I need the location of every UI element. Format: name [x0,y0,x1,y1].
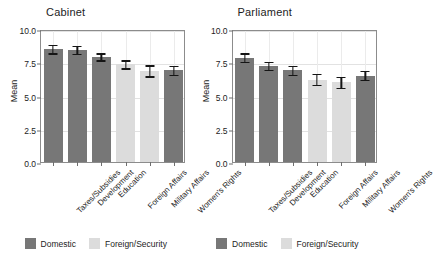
error-bar-cap-upper [288,66,297,67]
error-bar-cap-lower [97,60,106,61]
bar-group[interactable] [92,29,111,162]
bar-domestic[interactable] [68,50,87,162]
bar-foreign[interactable] [116,64,135,162]
y-axis-tick-label: 10.0 [19,26,36,36]
error-bar-cap-upper [313,74,322,75]
bar-domestic[interactable] [92,57,111,162]
legend-swatch-foreign-icon [89,238,100,249]
bar-group[interactable] [44,29,63,162]
error-bar-cap-lower [337,88,346,89]
x-axis-tick-mark [245,162,246,166]
x-axis-tick-mark [341,162,342,166]
panel-title-parliament: Parliament [238,6,293,18]
x-axis-tick-mark [269,162,270,166]
bar-foreign[interactable] [332,82,351,162]
y-axis-tick-label: 7.5 [24,59,36,69]
bar-group[interactable] [283,29,302,162]
error-bar-cap-lower [169,75,178,76]
legend-swatch-domestic-icon [25,238,36,249]
error-bar-cap-upper [264,62,273,63]
y-axis-tick-label: 10.0 [211,26,228,36]
error-bar [316,74,317,85]
error-bar-cap-lower [49,53,58,54]
bar-domestic[interactable] [356,76,375,162]
error-bar [365,71,366,80]
error-bar-cap-upper [49,45,58,46]
bar-group[interactable] [308,29,327,162]
y-axis-label-parliament: Mean [201,61,211,121]
y-axis-tick-label: 2.5 [24,126,36,136]
y-axis-label-cabinet: Mean [9,61,19,121]
error-bar-cap-upper [97,53,106,54]
error-bar-cap-lower [145,76,154,77]
bar-foreign[interactable] [308,80,327,162]
error-bar [52,45,53,54]
error-bar-cap-upper [337,77,346,78]
x-axis-tick-mark [77,162,78,166]
error-bar [244,53,245,62]
error-bar [341,77,342,88]
bar-group[interactable] [116,29,135,162]
legend-swatch-foreign-icon [281,238,292,249]
legend-item-foreign: Foreign/Security [281,238,359,249]
error-bar [149,65,150,76]
error-bar-cap-upper [73,46,82,47]
legend-parliament: Domestic Foreign/Security [192,238,384,249]
legend-item-domestic: Domestic [25,238,76,249]
plot-area-cabinet: 0.02.55.07.510.0 [40,30,185,163]
bar-group[interactable] [235,29,254,162]
error-bar-cap-lower [313,85,322,86]
error-bar [292,66,293,75]
error-bar-cap-upper [169,66,178,67]
bar-domestic[interactable] [283,70,302,162]
error-bar-cap-upper [240,53,249,54]
y-axis-tick-label: 7.5 [216,59,228,69]
bar-group[interactable] [164,29,183,162]
x-axis-tick-mark [365,162,366,166]
bar-domestic[interactable] [164,70,183,162]
x-axis-tick-mark [317,162,318,166]
x-axis-tick-mark [126,162,127,166]
panel-parliament: Parliament Mean 0.02.55.07.510.0 Taxes/S… [192,0,384,270]
bar-group[interactable] [332,29,351,162]
x-axis-labels-parliament: Taxes/SubsidiesDevelopmentEducationForei… [232,168,392,228]
x-axis-tick-mark [150,162,151,166]
plot-frame-parliament: 0.02.55.07.510.0 [232,30,377,163]
x-axis-tick-mark [53,162,54,166]
x-axis-tick-mark [293,162,294,166]
bar-group[interactable] [68,29,87,162]
legend-label-foreign: Foreign/Security [297,239,359,249]
legend-cabinet: Domestic Foreign/Security [0,238,192,249]
bars-container [41,31,184,162]
y-axis-tick-label: 0.0 [216,159,228,169]
error-bar-cap-lower [73,54,82,55]
bar-foreign[interactable] [140,71,159,162]
y-axis-tick-label: 5.0 [216,93,228,103]
legend-swatch-domestic-icon [216,238,227,249]
plot-area-parliament: 0.02.55.07.510.0 [232,30,377,163]
bar-domestic[interactable] [235,58,254,162]
panel-title-cabinet: Cabinet [46,6,85,18]
x-axis-tick-mark [101,162,102,166]
error-bar-cap-lower [240,62,249,63]
x-axis-tick-mark [174,162,175,166]
bar-group[interactable] [140,29,159,162]
bar-domestic[interactable] [44,49,63,162]
y-axis-tick-label: 2.5 [216,126,228,136]
legend-label-domestic: Domestic [41,239,76,249]
legend-item-foreign: Foreign/Security [89,238,167,249]
x-axis-labels-cabinet: Taxes/SubsidiesDevelopmentEducationForei… [40,168,200,228]
error-bar-cap-lower [121,68,130,69]
error-bar-cap-lower [264,70,273,71]
y-axis-tick-label: 0.0 [24,159,36,169]
bar-group[interactable] [356,29,375,162]
panel-cabinet: Cabinet Mean 0.02.55.07.510.0 Taxes/Subs… [0,0,192,270]
error-bar-cap-upper [361,71,370,72]
legend-item-domestic: Domestic [216,238,267,249]
bar-group[interactable] [259,29,278,162]
bar-domestic[interactable] [259,66,278,162]
error-bar-cap-lower [288,75,297,76]
y-axis-tick-label: 5.0 [24,93,36,103]
legend-label-domestic: Domestic [232,239,267,249]
